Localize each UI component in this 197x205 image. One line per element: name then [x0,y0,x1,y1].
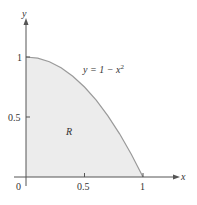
x-tick-label-1: 1 [140,181,145,192]
region-r-fill [26,57,143,177]
x-axis-arrow-icon [173,175,180,180]
plot-canvas: y x 0 0.5 1 0.5 1 y = 1 − x2 R [0,0,197,205]
curve-equation-label: y = 1 − x2 [82,63,124,75]
origin-label: 0 [16,181,21,192]
x-axis-label: x [180,171,186,182]
curve-equation-text: y = 1 − x [82,64,121,75]
y-axis-label: y [21,8,27,19]
x-tick-label-0.5: 0.5 [77,181,90,192]
region-r-label: R [65,126,72,137]
y-axis-arrow-icon [24,18,29,25]
y-tick-label-0.5: 0.5 [8,112,21,123]
curve-equation-exponent: 2 [120,63,124,71]
y-tick-label-1: 1 [17,52,22,63]
